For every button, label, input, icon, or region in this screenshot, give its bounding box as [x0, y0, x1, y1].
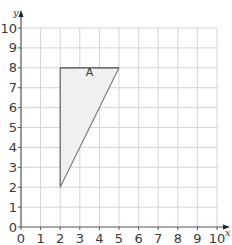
y-tick-label: 1 — [9, 200, 17, 215]
shape-label: A — [86, 66, 94, 79]
x-tick-label: 6 — [134, 231, 142, 245]
y-tick-label: 6 — [9, 100, 17, 115]
grid-lines — [21, 28, 217, 227]
y-tick-label: 0 — [9, 220, 17, 235]
x-tick-label: 4 — [95, 231, 103, 245]
x-tick-label: 0 — [17, 231, 25, 245]
x-axis-label: x — [225, 227, 231, 238]
y-tick-label: 9 — [9, 40, 17, 55]
x-tick-label: 3 — [76, 231, 84, 245]
y-tick-label: 3 — [9, 160, 17, 175]
coordinate-grid: A 012345678910012345678910 x y — [0, 0, 232, 245]
y-tick-label: 5 — [9, 120, 17, 135]
x-tick-label: 9 — [193, 231, 201, 245]
y-axis-label: y — [12, 7, 19, 18]
tick-labels: 012345678910012345678910 — [0, 21, 225, 245]
x-tick-label: 1 — [36, 231, 44, 245]
x-tick-label: 8 — [174, 231, 182, 245]
axes — [19, 10, 231, 230]
y-tick-label: 4 — [9, 140, 17, 155]
y-tick-label: 8 — [9, 60, 17, 75]
y-tick-label: 10 — [0, 21, 17, 36]
x-tick-label: 5 — [115, 231, 123, 245]
y-tick-label: 7 — [9, 80, 17, 95]
x-tick-label: 7 — [154, 231, 162, 245]
x-tick-label: 2 — [56, 231, 64, 245]
x-tick-label: 10 — [209, 231, 226, 245]
shapes-layer: A — [60, 66, 119, 187]
y-tick-label: 2 — [9, 180, 17, 195]
y-axis-arrow-icon — [19, 10, 24, 17]
